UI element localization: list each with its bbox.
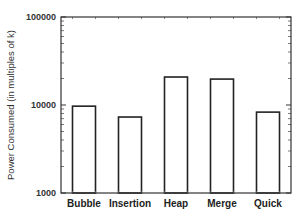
- y-tick-label: 1000: [36, 188, 56, 198]
- bar-chart: 100010000100000BubbleInsertionHeapMergeQ…: [0, 0, 306, 218]
- bar-quick: [257, 112, 280, 193]
- x-tick-label: Merge: [207, 198, 237, 209]
- x-tick-label: Insertion: [109, 198, 151, 209]
- x-tick-label: Heap: [164, 198, 188, 209]
- y-tick-label: 100000: [26, 12, 56, 22]
- x-tick-label: Bubble: [67, 198, 101, 209]
- bar-merge: [211, 79, 234, 193]
- x-tick-label: Quick: [254, 198, 282, 209]
- y-tick-label: 10000: [31, 100, 56, 110]
- bar-bubble: [73, 106, 96, 193]
- bar-heap: [165, 77, 188, 193]
- bar-insertion: [119, 117, 142, 193]
